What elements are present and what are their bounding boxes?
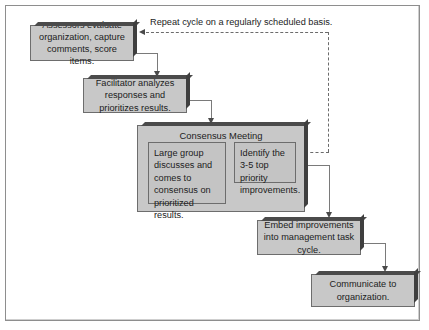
node-communicate[interactable]: Communicate to organization. xyxy=(311,274,415,307)
diagram-canvas: Repeat cycle on a regularly scheduled ba… xyxy=(0,0,429,330)
repeat-cycle-caption: Repeat cycle on a regularly scheduled ba… xyxy=(150,17,332,27)
node-facilitator[interactable]: Facilitator analyzes responses and prior… xyxy=(83,78,187,113)
node-facilitator-label: Facilitator analyzes responses and prior… xyxy=(88,77,182,114)
connector-consensus-arrowhead-icon xyxy=(326,212,332,218)
node-assessors-label: Assessors evaluate organization, capture… xyxy=(35,19,129,68)
connector-consensus-vertical xyxy=(329,165,330,215)
node-identify-improvements-label: Identify the 3-5 top priority improvemen… xyxy=(240,148,300,195)
node-communicate-label: Communicate to organization. xyxy=(316,278,410,302)
feedback-dashed-right-segment xyxy=(328,32,329,152)
feedback-arrowhead-icon xyxy=(139,29,145,35)
connector-assessors-arrowhead-icon xyxy=(154,71,160,77)
node-large-group[interactable]: Large group discusses and comes to conse… xyxy=(148,142,226,204)
connector-embed-horizontal xyxy=(361,243,385,244)
node-assessors[interactable]: Assessors evaluate organization, capture… xyxy=(30,25,134,61)
node-embed[interactable]: Embed improvements into management task … xyxy=(257,220,361,255)
node-identify-improvements[interactable]: Identify the 3-5 top priority improvemen… xyxy=(234,142,296,183)
connector-assessors-horizontal xyxy=(134,53,157,54)
connector-consensus-horizontal xyxy=(305,165,329,166)
connector-facilitator-arrowhead-icon xyxy=(208,118,214,124)
node-embed-label: Embed improvements into management task … xyxy=(262,219,356,256)
connector-embed-arrowhead-icon xyxy=(382,266,388,272)
feedback-dashed-bottom-segment xyxy=(305,152,329,153)
node-consensus-meeting-label: Consensus Meeting xyxy=(138,130,304,142)
feedback-dashed-top-segment xyxy=(146,32,328,33)
connector-facilitator-horizontal xyxy=(187,100,211,101)
